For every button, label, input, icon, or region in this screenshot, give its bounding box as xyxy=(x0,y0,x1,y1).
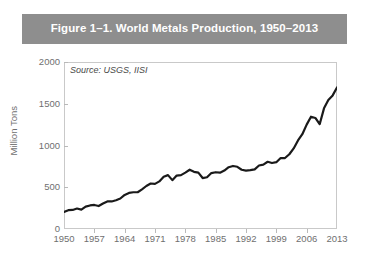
chart-container: Source: USGS, IISI 0500100015002000 Mill… xyxy=(0,44,369,270)
data-series-line xyxy=(64,87,337,211)
y-tick-mark-1500 xyxy=(64,104,68,105)
y-tick-mark-500 xyxy=(64,187,68,188)
y-tick-label-1500: 1500 xyxy=(26,99,60,109)
x-tick-mark-1964 xyxy=(125,229,126,233)
x-axis-labels: 1950195719641971197819851992199920062013 xyxy=(0,234,369,254)
y-tick-label-2000: 2000 xyxy=(26,57,60,67)
x-tick-mark-1985 xyxy=(216,229,217,233)
figure-title-banner: Figure 1–1. World Metals Production, 195… xyxy=(22,14,347,44)
x-tick-mark-1992 xyxy=(246,229,247,233)
line-chart-plot xyxy=(64,62,337,229)
y-tick-label-1000: 1000 xyxy=(26,141,60,151)
x-tick-mark-1978 xyxy=(185,229,186,233)
x-tick-label-2013: 2013 xyxy=(317,234,357,244)
y-axis-title: Million Tons xyxy=(9,86,19,176)
x-tick-mark-1957 xyxy=(94,229,95,233)
x-tick-mark-1999 xyxy=(276,229,277,233)
x-tick-mark-2006 xyxy=(307,229,308,233)
x-tick-mark-1971 xyxy=(155,229,156,233)
y-tick-mark-1000 xyxy=(64,146,68,147)
page-title: Figure 1–1. World Metals Production, 195… xyxy=(51,23,319,35)
y-tick-label-500: 500 xyxy=(26,182,60,192)
figure-page: Figure 1–1. World Metals Production, 195… xyxy=(0,0,369,270)
y-tick-mark-2000 xyxy=(64,62,68,63)
source-annotation: Source: USGS, IISI xyxy=(70,66,148,75)
